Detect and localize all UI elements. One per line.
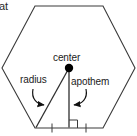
apothem-pointer-arrow <box>74 89 86 105</box>
hexagon-diagram-svg <box>0 0 137 136</box>
radius-pointer-arrow <box>33 89 44 105</box>
right-angle-marker <box>69 120 78 128</box>
caption-fragment: at <box>0 1 8 12</box>
radius-label: radius <box>20 75 47 85</box>
apothem-label: apothem <box>71 77 109 87</box>
diagram-canvas: at center radius apothem <box>0 0 137 136</box>
center-point-dot <box>65 64 73 72</box>
center-label: center <box>53 53 80 63</box>
